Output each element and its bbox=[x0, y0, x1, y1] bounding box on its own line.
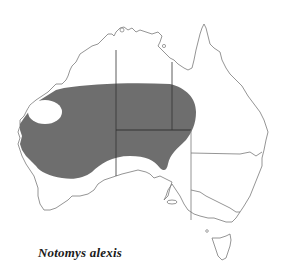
king-island bbox=[206, 230, 209, 233]
species-caption: Notomys alexis bbox=[38, 245, 122, 261]
tasmania-outline bbox=[212, 234, 231, 260]
kangaroo-island bbox=[167, 200, 177, 204]
range-gap bbox=[28, 100, 62, 124]
melville-island bbox=[120, 28, 124, 32]
distribution-map bbox=[0, 0, 286, 279]
groote-island bbox=[162, 44, 165, 47]
